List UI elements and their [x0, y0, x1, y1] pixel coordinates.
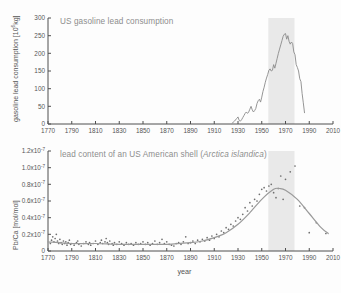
- x-tick-label: 1810: [88, 254, 103, 261]
- data-point: [80, 245, 82, 247]
- data-point: [161, 238, 163, 240]
- plot-area-gasoline: 0 50 100 150 200 250 300: [0, 0, 341, 145]
- plot-area-shell: 0 0.2x10-7 0.4x10-7 0.6x10-7 0.8x10-7 1.…: [0, 145, 341, 293]
- data-point: [142, 241, 144, 243]
- data-point: [242, 213, 244, 215]
- y-tick-labels-gasoline: 0 50 100 150 200 250 300: [34, 14, 45, 127]
- data-point: [63, 240, 65, 242]
- y-tick-label: 200: [34, 50, 45, 57]
- data-point: [118, 241, 120, 243]
- y-tick-label: 100: [34, 85, 45, 92]
- data-point: [273, 192, 275, 194]
- data-point: [289, 171, 291, 173]
- x-tick-label: 1910: [207, 127, 222, 134]
- shaded-band-gasoline: [268, 18, 294, 124]
- data-point: [197, 239, 199, 241]
- data-point: [109, 240, 111, 242]
- data-point: [228, 228, 230, 230]
- data-point: [308, 232, 310, 234]
- x-tick-label: 1890: [183, 254, 198, 261]
- data-point: [211, 235, 213, 237]
- data-point: [59, 238, 61, 240]
- x-tick-label: 1770: [41, 127, 56, 134]
- data-point: [244, 207, 246, 209]
- chart-panel-shell: lead content of an US American shell (Ar…: [0, 145, 341, 293]
- data-point: [216, 233, 218, 235]
- x-tick-label: 1910: [207, 254, 222, 261]
- y-tick-label: 0.2x10-7: [22, 230, 46, 237]
- y-tick-label: 250: [34, 32, 45, 39]
- data-point: [282, 198, 284, 200]
- x-tick-labels-shell: 1770 1790 1810 1830 1850 1870 1890 1910 …: [41, 254, 341, 261]
- data-point: [299, 205, 301, 207]
- y-tick-label: 300: [34, 14, 45, 21]
- data-point: [285, 178, 287, 180]
- x-tick-label: 1930: [231, 127, 246, 134]
- data-point: [183, 241, 185, 243]
- data-point: [240, 218, 242, 220]
- y-tick-label: 150: [34, 67, 45, 74]
- data-point: [270, 183, 272, 185]
- data-point: [101, 239, 103, 241]
- x-tick-label: 1770: [41, 254, 56, 261]
- data-point: [66, 244, 68, 246]
- data-point: [147, 242, 149, 244]
- x-tick-label: 1870: [160, 127, 175, 134]
- data-point: [61, 243, 63, 245]
- data-point: [135, 242, 137, 244]
- data-point: [173, 245, 175, 247]
- data-point: [73, 244, 75, 246]
- data-point: [237, 217, 239, 219]
- y-tick-label: 50: [38, 103, 46, 110]
- data-point: [247, 210, 249, 212]
- data-point: [57, 240, 59, 242]
- y-tick-label: 1.0x10-7: [22, 164, 46, 171]
- x-tick-label: 1990: [302, 254, 317, 261]
- data-point: [77, 240, 79, 242]
- y-tick-label: 1.2x10-7: [22, 147, 46, 154]
- data-point: [256, 200, 258, 202]
- data-point: [90, 244, 92, 246]
- data-point: [51, 239, 53, 241]
- y-tick-label: 0.8x10-7: [22, 180, 46, 187]
- data-point: [166, 241, 168, 243]
- data-point: [65, 241, 67, 243]
- data-point: [50, 243, 52, 245]
- x-tick-label: 1790: [65, 254, 80, 261]
- shaded-band-shell: [268, 151, 294, 251]
- y-tick-label: 0.6x10-7: [22, 197, 46, 204]
- data-point: [55, 233, 57, 235]
- data-point: [52, 236, 54, 238]
- x-tick-label: 1850: [136, 254, 151, 261]
- data-point: [232, 225, 234, 227]
- x-tick-label: 1970: [278, 254, 293, 261]
- data-point: [206, 237, 208, 239]
- data-point: [235, 220, 237, 222]
- data-point: [126, 242, 128, 244]
- figure-container: US gasoline lead consumption gasoline le…: [0, 0, 341, 293]
- x-tick-label: 1790: [65, 127, 80, 134]
- data-point: [95, 240, 97, 242]
- data-point: [266, 190, 268, 192]
- data-point: [85, 241, 87, 243]
- x-tick-label: 1830: [112, 254, 127, 261]
- data-point: [154, 240, 156, 242]
- x-tick-label: 2010: [326, 254, 341, 261]
- data-point: [192, 240, 194, 242]
- data-point: [54, 238, 56, 240]
- x-tick-label: 1950: [255, 254, 270, 261]
- data-point: [261, 188, 263, 190]
- data-point: [185, 236, 187, 238]
- data-point: [254, 198, 256, 200]
- x-tick-label: 2010: [326, 127, 341, 134]
- data-point: [159, 242, 161, 244]
- x-tick-label: 1950: [255, 127, 270, 134]
- data-point: [221, 230, 223, 232]
- x-tick-label: 1890: [183, 127, 198, 134]
- data-point: [230, 223, 232, 225]
- data-point: [251, 205, 253, 207]
- data-point: [294, 165, 296, 167]
- data-point: [69, 239, 71, 241]
- data-point: [104, 241, 106, 243]
- data-point: [225, 227, 227, 229]
